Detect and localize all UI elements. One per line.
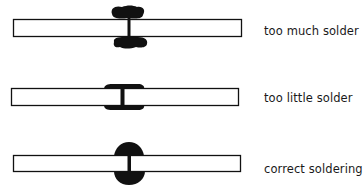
lead-1 xyxy=(128,18,131,38)
lead-2 xyxy=(121,88,125,106)
joint-too-much-solder xyxy=(14,6,242,49)
label-too-much-solder: too much solder xyxy=(264,24,359,38)
board-3 xyxy=(14,156,241,172)
solder-cone-bottom-3 xyxy=(114,171,145,185)
joint-too-little-solder xyxy=(12,84,239,110)
lead-3 xyxy=(128,155,132,172)
solder-cone-top-3 xyxy=(114,142,144,156)
board-2 xyxy=(12,89,239,106)
label-too-little-solder: too little solder xyxy=(264,91,353,105)
solder-blob-bottom-1 xyxy=(114,37,147,49)
solder-fillet-bottom-2 xyxy=(104,105,144,110)
label-correct-soldering: correct soldering xyxy=(264,162,363,176)
solder-blob-top-1 xyxy=(112,6,145,19)
joint-correct-soldering xyxy=(14,142,241,185)
